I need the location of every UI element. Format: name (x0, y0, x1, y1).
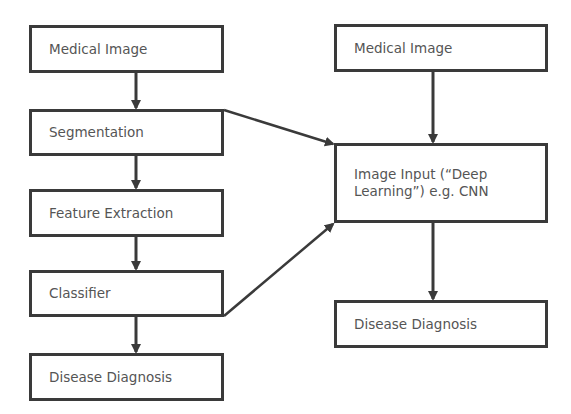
node-label: Segmentation (49, 124, 144, 141)
node-label: Feature Extraction (49, 205, 173, 222)
node-feature-extraction: Feature Extraction (29, 189, 224, 237)
node-medical-image-left: Medical Image (29, 25, 224, 73)
node-label: Image Input (“Deep Learning”) e.g. CNN (354, 166, 515, 200)
node-label: Disease Diagnosis (49, 369, 172, 386)
node-medical-image-right: Medical Image (334, 24, 548, 72)
node-segmentation: Segmentation (29, 109, 224, 156)
node-label: Medical Image (49, 41, 147, 58)
node-label: Disease Diagnosis (354, 316, 477, 333)
arrow-classifier-to-image-input (224, 224, 333, 316)
diagram-canvas: Medical Image Segmentation Feature Extra… (0, 0, 571, 414)
arrow-segmentation-to-image-input (224, 110, 333, 144)
node-disease-diagnosis-left: Disease Diagnosis (29, 353, 224, 401)
node-label: Medical Image (354, 40, 452, 57)
node-disease-diagnosis-right: Disease Diagnosis (334, 300, 548, 348)
node-classifier: Classifier (29, 270, 224, 317)
node-label: Classifier (49, 285, 111, 302)
node-image-input-deep-learning: Image Input (“Deep Learning”) e.g. CNN (334, 143, 548, 223)
